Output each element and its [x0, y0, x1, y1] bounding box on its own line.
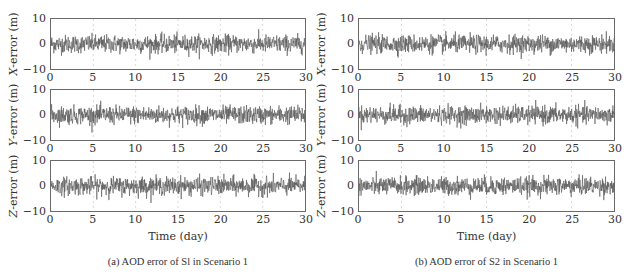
- x-tick-label: 15: [475, 143, 499, 154]
- x-error-axes: [358, 18, 615, 70]
- x-tick-label: 5: [389, 214, 413, 225]
- x-tick-label: 25: [560, 214, 584, 225]
- subfigure-caption: (a) AOD error of Sl in Scenario 1: [48, 256, 308, 267]
- y-error-ylabel: Y-error (m): [316, 75, 328, 155]
- x-error-ylabel: X-error (m): [8, 4, 20, 84]
- x-error-axes: [50, 18, 306, 70]
- x-axis-label: Time (day): [118, 230, 238, 243]
- x-tick-label: 5: [389, 143, 413, 154]
- y-tick-label: 0: [326, 180, 354, 191]
- x-tick-label: 15: [166, 143, 190, 154]
- z-error-ylabel: Z-error (m): [316, 146, 328, 226]
- y-tick-label: 0: [18, 38, 46, 49]
- y-tick-label: 0: [18, 109, 46, 120]
- x-tick-label: 20: [209, 214, 233, 225]
- x-tick-label: 25: [560, 143, 584, 154]
- x-tick-label: 10: [432, 214, 456, 225]
- x-tick-label: 15: [166, 214, 190, 225]
- x-tick-label: 10: [123, 143, 147, 154]
- z-error-axes: [358, 160, 615, 212]
- x-axis-label: Time (day): [427, 230, 547, 243]
- x-tick-label: 0: [38, 143, 62, 154]
- x-tick-label: 15: [166, 72, 190, 83]
- x-tick-label: 0: [346, 143, 370, 154]
- x-tick-label: 5: [389, 72, 413, 83]
- x-tick-label: 10: [123, 214, 147, 225]
- x-tick-label: 20: [517, 143, 541, 154]
- z-error-axes: [50, 160, 306, 212]
- x-tick-label: 25: [560, 72, 584, 83]
- y-tick-label: 0: [326, 109, 354, 120]
- x-tick-label: 0: [38, 214, 62, 225]
- x-tick-label: 30: [603, 143, 627, 154]
- y-tick-label: 10: [18, 84, 46, 95]
- x-tick-label: 25: [251, 143, 275, 154]
- x-tick-label: 0: [346, 72, 370, 83]
- x-tick-label: 30: [603, 72, 627, 83]
- x-tick-label: 30: [603, 214, 627, 225]
- x-tick-label: 25: [251, 72, 275, 83]
- y-tick-label: 10: [326, 84, 354, 95]
- x-tick-label: 20: [209, 72, 233, 83]
- z-error-ylabel: Z-error (m): [8, 146, 20, 226]
- x-tick-label: 10: [432, 72, 456, 83]
- x-tick-label: 15: [475, 72, 499, 83]
- x-tick-label: 20: [517, 72, 541, 83]
- x-tick-label: 10: [432, 143, 456, 154]
- x-tick-label: 20: [209, 143, 233, 154]
- y-tick-label: 0: [326, 38, 354, 49]
- subfigure-caption: (b) AOD error of S2 in Scenario 1: [357, 256, 617, 267]
- x-tick-label: 0: [38, 72, 62, 83]
- panel-b: 100−10051015202530X-error (m)100−1005101…: [318, 0, 636, 275]
- error-series-line: [359, 171, 614, 200]
- y-tick-label: 10: [326, 155, 354, 166]
- y-tick-label: 10: [326, 13, 354, 24]
- y-tick-label: 0: [18, 180, 46, 191]
- x-tick-label: 5: [81, 143, 105, 154]
- x-tick-label: 0: [346, 214, 370, 225]
- y-tick-label: 10: [18, 13, 46, 24]
- y-tick-label: 10: [18, 155, 46, 166]
- y-error-axes: [50, 89, 306, 141]
- x-tick-label: 10: [123, 72, 147, 83]
- x-tick-label: 5: [81, 214, 105, 225]
- x-tick-label: 25: [251, 214, 275, 225]
- y-error-axes: [358, 89, 615, 141]
- x-tick-label: 15: [475, 214, 499, 225]
- x-error-ylabel: X-error (m): [316, 4, 328, 84]
- panel-a: 100−10051015202530X-error (m)100−1005101…: [0, 0, 318, 275]
- x-tick-label: 20: [517, 214, 541, 225]
- y-error-ylabel: Y-error (m): [8, 75, 20, 155]
- x-tick-label: 5: [81, 72, 105, 83]
